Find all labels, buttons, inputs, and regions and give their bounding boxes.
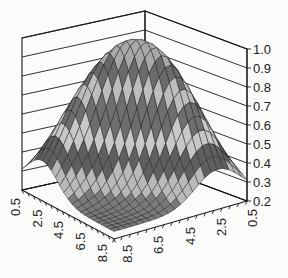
right-tick-label: 0.5 — [245, 209, 260, 227]
z-axis-tick-labels: 0.20.30.40.50.60.70.80.91.0 — [253, 42, 271, 209]
z-tick-label: 0.5 — [253, 137, 271, 152]
surface-chart: 0.20.30.40.50.60.70.80.91.0 0.52.54.56.5… — [0, 0, 288, 278]
z-tick-label: 0.3 — [253, 175, 271, 190]
z-tick-label: 1.0 — [253, 42, 271, 57]
z-tick-label: 0.6 — [253, 118, 271, 133]
z-tick-label: 0.9 — [253, 61, 271, 76]
z-tick-label: 0.4 — [253, 156, 271, 171]
right-tick-label: 4.5 — [183, 227, 198, 245]
right-tick-label: 2.5 — [214, 218, 229, 236]
z-tick-label: 0.8 — [253, 80, 271, 95]
surface-mesh — [22, 39, 247, 231]
z-tick-label: 0.7 — [253, 99, 271, 114]
left-tick-label: 4.5 — [51, 221, 66, 239]
left-tick-label: 8.5 — [95, 244, 110, 262]
left-tick-label: 0.5 — [8, 198, 23, 216]
right-tick-label: 6.5 — [151, 236, 166, 254]
z-tick-label: 0.2 — [253, 194, 271, 209]
left-tick-label: 6.5 — [73, 233, 88, 251]
left-tick-label: 2.5 — [30, 210, 45, 228]
right-axis-tick — [113, 239, 115, 243]
right-tick-label: 8.5 — [120, 245, 135, 263]
